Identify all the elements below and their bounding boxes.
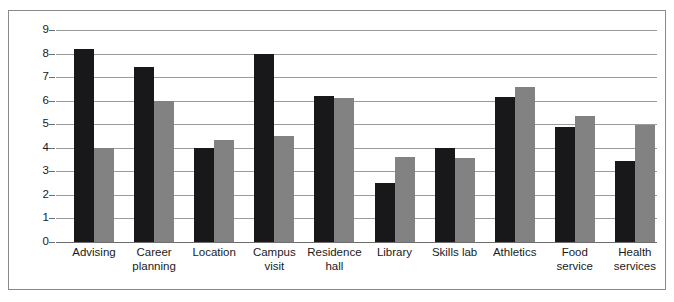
category-label: Library — [364, 245, 424, 259]
category-label: Residence hall — [304, 245, 364, 273]
bar-group — [74, 30, 114, 242]
y-axis-tick-label: 9 — [43, 24, 49, 36]
y-tick-mark — [49, 171, 55, 172]
y-axis-tick-label: 7 — [43, 71, 49, 83]
y-axis-tick-label: 1 — [43, 213, 49, 225]
category-label: Health services — [605, 245, 665, 273]
bar — [515, 87, 535, 242]
y-tick-mark — [49, 148, 55, 149]
y-axis-tick-label: 5 — [43, 118, 49, 130]
bar — [214, 140, 234, 242]
category-label: Athletics — [485, 245, 545, 259]
bar — [274, 136, 294, 242]
bar-group — [615, 30, 655, 242]
y-tick-mark — [49, 195, 55, 196]
plot-area: 0123456789 — [56, 30, 657, 242]
y-tick-mark — [49, 124, 55, 125]
y-tick-mark — [49, 101, 55, 102]
y-axis-tick-label: 0 — [43, 236, 49, 248]
y-tick-mark — [49, 54, 55, 55]
bars — [56, 30, 657, 242]
y-tick-mark — [49, 77, 55, 78]
y-tick-mark — [49, 218, 55, 219]
bar — [254, 54, 274, 242]
bar — [94, 148, 114, 242]
bar — [635, 125, 655, 242]
bar — [395, 157, 415, 242]
category-label: Campus visit — [244, 245, 304, 273]
bar — [154, 101, 174, 242]
bar — [74, 49, 94, 242]
bar-group — [495, 30, 535, 242]
y-axis-tick-label: 6 — [43, 95, 49, 107]
bar — [314, 96, 334, 242]
bar-group — [254, 30, 294, 242]
bar — [455, 158, 475, 242]
bar — [555, 127, 575, 242]
bar-group — [134, 30, 174, 242]
axis-baseline — [56, 242, 657, 243]
bar-group — [314, 30, 354, 242]
y-axis-tick-label: 8 — [43, 48, 49, 60]
category-label: Advising — [64, 245, 124, 259]
bar — [435, 148, 455, 242]
y-tick-mark — [49, 242, 55, 243]
category-label: Skills lab — [425, 245, 485, 259]
bar — [334, 98, 354, 242]
category-axis-labels: AdvisingCareer planningLocationCampus vi… — [56, 245, 657, 289]
bar — [495, 97, 515, 242]
bar — [194, 148, 214, 242]
bar — [134, 67, 154, 242]
bar — [375, 183, 395, 242]
category-label: Location — [184, 245, 244, 259]
bar-group — [435, 30, 475, 242]
bar-group — [375, 30, 415, 242]
bar-group — [555, 30, 595, 242]
bar-group — [194, 30, 234, 242]
bar — [615, 161, 635, 242]
y-axis-tick-label: 4 — [43, 142, 49, 154]
y-axis-tick-label: 3 — [43, 166, 49, 178]
chart-frame: 0123456789 AdvisingCareer planningLocati… — [8, 10, 666, 290]
y-axis-tick-label: 2 — [43, 189, 49, 201]
y-tick-mark — [49, 30, 55, 31]
category-label: Career planning — [124, 245, 184, 273]
category-label: Food service — [545, 245, 605, 273]
bar — [575, 116, 595, 242]
